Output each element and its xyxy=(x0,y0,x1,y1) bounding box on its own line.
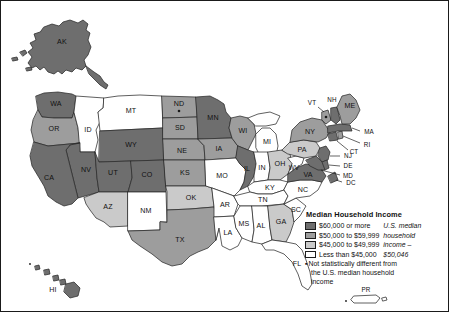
legend-footnote-line-2: the U.S. median household xyxy=(305,269,443,278)
state-RI xyxy=(338,131,343,139)
state-shape-WA xyxy=(36,92,76,118)
nsd-marker-VT xyxy=(325,116,328,119)
state-label-VT: VT xyxy=(308,99,316,106)
state-shape-AK-aleutians-3 xyxy=(26,67,32,71)
territory-PR: PR xyxy=(345,286,387,303)
legend-items: $60,000 or more $50,000 to $59,999 $45,0… xyxy=(305,221,379,259)
state-AK: AK xyxy=(12,20,108,89)
leader-VT xyxy=(318,107,324,112)
state-MN: MN xyxy=(196,96,232,139)
state-shape-AK xyxy=(28,20,91,74)
state-DC xyxy=(328,172,338,183)
legend-footnote-line-1: Not statistically different from xyxy=(309,261,397,268)
leader-CT xyxy=(337,141,348,150)
state-WA: WA xyxy=(36,92,76,118)
pr-islet-right xyxy=(382,297,387,301)
state-shape-OK xyxy=(166,186,214,210)
leader-RI xyxy=(343,136,360,143)
state-shape-SD xyxy=(163,117,198,139)
legend-note-line-4: $50,046 xyxy=(383,250,421,260)
state-shape-HI-island-4 xyxy=(60,279,66,285)
legend-note-line-2: household xyxy=(383,231,421,241)
state-shape-RI xyxy=(338,131,343,139)
state-label-DC: DC xyxy=(346,179,356,186)
map-legend: Median Household Income $60,000 or more … xyxy=(305,210,447,286)
state-shape-IN xyxy=(254,152,270,182)
legend-swatch-icon-tier3 xyxy=(305,241,316,249)
state-shape-AZ xyxy=(84,192,128,227)
leader-DC xyxy=(336,180,342,182)
legend-label-tier3: $45,000 to $49,999 xyxy=(319,241,379,248)
state-SD: SD xyxy=(163,117,198,139)
state-label-NH: NH xyxy=(327,96,337,103)
state-shape-KS xyxy=(164,160,206,186)
hi-islet-dot xyxy=(29,263,31,265)
legend-note-line-1: U.S. median xyxy=(383,221,421,231)
legend-item-50000-to-59999: $50,000 to $59,999 xyxy=(305,231,379,241)
state-shape-AK-aleutians-2 xyxy=(12,57,18,61)
state-AZ: AZ xyxy=(84,192,128,227)
legend-note-line-3: income – xyxy=(383,240,421,250)
state-label-DE: DE xyxy=(343,162,352,169)
state-shape-HI-island-5 xyxy=(64,282,80,298)
legend-label-tier1: $60,000 or more xyxy=(319,222,370,229)
leader-MA xyxy=(352,128,360,131)
legend-label-tier2: $50,000 to $59,999 xyxy=(319,232,379,239)
state-shape-CO xyxy=(128,160,166,192)
legend-item-45000-to-49999: $45,000 to $49,999 xyxy=(305,240,379,250)
state-shape-HI-island-3 xyxy=(53,275,59,281)
state-label-CT: CT xyxy=(350,148,359,155)
state-label-MA: MA xyxy=(364,128,374,135)
state-label-HI: HI xyxy=(49,286,56,294)
state-label-MD: MD xyxy=(343,172,353,179)
state-GA: GA xyxy=(268,204,294,242)
legend-footnote-line-3: income xyxy=(305,278,443,287)
state-shape-MT xyxy=(98,95,163,131)
nsd-marker-ND xyxy=(178,110,181,113)
legend-swatch-icon-tier1 xyxy=(305,222,316,230)
state-CO: CO xyxy=(128,160,166,192)
legend-reference-note: U.S. median household income – $50,046 xyxy=(383,221,421,259)
state-shape-WY xyxy=(99,128,164,162)
legend-label-tier4: Less than $45,000 xyxy=(319,251,377,258)
state-label-RI: RI xyxy=(364,141,371,148)
legend-title: Median Household Income xyxy=(306,210,447,219)
pr-islet-dot-left xyxy=(345,300,347,302)
state-IN: IN xyxy=(254,152,270,182)
legend-swatch-icon-tier2 xyxy=(305,232,316,240)
state-NE: NE xyxy=(163,139,205,160)
state-label-NJ: NJ xyxy=(344,152,352,159)
state-shape-AK-panhandle xyxy=(86,66,108,89)
legend-item-60000-or-more: $60,000 or more xyxy=(305,221,379,231)
state-shape-DC xyxy=(328,172,338,183)
legend-item-less-than-45000: Less than $45,000 xyxy=(305,250,379,260)
legend-swatch-icon-tier4 xyxy=(305,251,316,259)
state-shape-PR xyxy=(351,295,380,303)
nsd-marker-icon: ▪ xyxy=(305,259,308,268)
state-WY: WY xyxy=(99,128,164,162)
state-shape-CT xyxy=(328,132,338,141)
choropleth-map-figure: AK WA OR ID MT WY NV xyxy=(0,0,449,312)
state-shape-NC xyxy=(284,180,322,204)
state-shape-NE xyxy=(163,139,205,160)
legend-body: $60,000 or more $50,000 to $59,999 $45,0… xyxy=(305,221,447,259)
state-shape-HI-island-1 xyxy=(35,265,40,270)
state-KS: KS xyxy=(164,160,206,186)
state-OK: OK xyxy=(166,186,214,210)
state-MT: MT xyxy=(98,95,163,131)
state-ND: ND xyxy=(162,96,197,118)
state-ME: ME xyxy=(337,94,360,124)
state-NC: NC xyxy=(284,180,322,204)
state-shape-ND xyxy=(162,96,197,118)
leader-DE xyxy=(329,165,340,166)
state-CT xyxy=(328,132,338,141)
state-HI: HI xyxy=(29,263,80,298)
territory-label-PR: PR xyxy=(361,286,370,293)
legend-footnote: ▪Not statistically different from the U.… xyxy=(305,260,443,286)
state-shape-GA xyxy=(268,204,294,242)
state-shape-AK-aleutians-1 xyxy=(20,50,27,56)
state-shape-HI-island-2 xyxy=(44,269,50,275)
state-shape-ME xyxy=(337,94,360,124)
state-shape-MN xyxy=(196,96,232,139)
